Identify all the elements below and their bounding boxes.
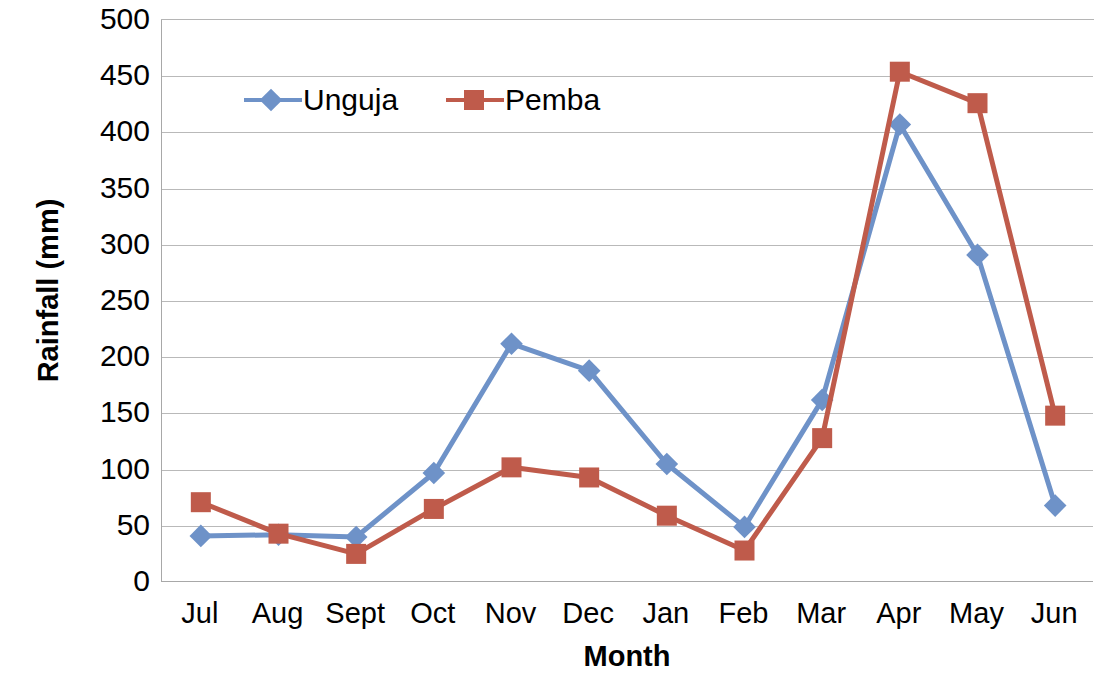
legend-entry-pemba: Pemba: [446, 84, 600, 116]
y-tick-label: 300: [10, 229, 150, 259]
data-point-pemba-Dec: [579, 467, 599, 487]
legend-marker-unguja: [260, 89, 283, 112]
y-tick-label: 400: [10, 116, 150, 146]
data-point-pemba-Apr: [890, 62, 910, 82]
data-point-unguja-May: [966, 244, 989, 267]
rainfall-line-chart: Rainfall (mm) 05010015020025030035040045…: [0, 0, 1100, 679]
legend-swatch-pemba: [446, 89, 504, 111]
data-point-pemba-Feb: [735, 541, 755, 561]
y-tick-label: 150: [10, 397, 150, 427]
y-axis-tick-labels: 050100150200250300350400450500: [0, 0, 150, 679]
data-point-pemba-Jul: [191, 492, 211, 512]
x-tick-label: Jun: [994, 596, 1100, 630]
data-point-pemba-Aug: [269, 524, 289, 544]
legend-entry-unguja: Unguja: [244, 84, 398, 116]
y-tick-label: 100: [10, 454, 150, 484]
y-tick-label: 200: [10, 341, 150, 371]
data-point-unguja-Jul: [190, 525, 213, 548]
data-point-unguja-Nov: [500, 332, 523, 355]
x-axis-title: Month: [161, 640, 1093, 673]
legend-marker-pemba: [464, 90, 484, 110]
y-tick-label: 350: [10, 173, 150, 203]
series-line-pemba: [201, 72, 1055, 554]
series-line-unguja: [201, 125, 1055, 538]
legend-label-pemba: Pemba: [505, 84, 600, 116]
data-point-unguja-Jun: [1044, 494, 1067, 517]
y-tick-label: 500: [10, 4, 150, 34]
legend-label-unguja: Unguja: [303, 84, 398, 116]
data-point-pemba-May: [968, 93, 988, 113]
data-point-pemba-Jun: [1045, 406, 1065, 426]
y-tick-label: 450: [10, 60, 150, 90]
legend: Unguja Pemba: [238, 82, 606, 118]
data-point-pemba-Nov: [502, 457, 522, 477]
x-axis-tick-labels: JulAugSeptOctNovDecJanFebMarAprMayJun: [161, 596, 1093, 636]
legend-swatch-unguja: [244, 89, 302, 111]
data-point-pemba-Sept: [346, 544, 366, 564]
y-tick-label: 0: [10, 566, 150, 596]
y-tick-label: 50: [10, 510, 150, 540]
data-point-pemba-Mar: [812, 428, 832, 448]
data-point-pemba-Oct: [424, 499, 444, 519]
y-tick-label: 250: [10, 285, 150, 315]
data-point-pemba-Jan: [657, 506, 677, 526]
